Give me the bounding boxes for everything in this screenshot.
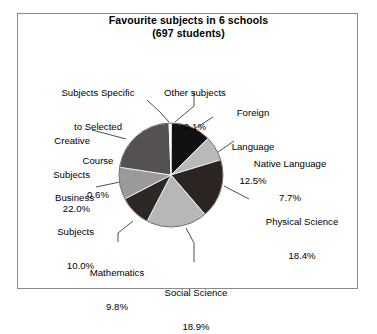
- label-subjects-specific-line1: Subjects Specific: [46, 87, 150, 98]
- label-business-subjects-line2: Subjects: [16, 226, 94, 237]
- label-business-subjects-line3: 10.0%: [16, 260, 94, 271]
- label-mathematics-line2: 9.8%: [70, 301, 164, 312]
- label-creative-subjects-line2: Subjects: [12, 169, 90, 180]
- label-native-language-line1: Native Language: [238, 158, 342, 169]
- chart-title: Favourite subjects in 6 schools (697 stu…: [0, 14, 377, 40]
- label-physical-science-line1: Physical Science: [252, 216, 352, 227]
- chart-title-line1: Favourite subjects in 6 schools: [109, 14, 268, 26]
- label-physical-science-line2: 18.4%: [252, 250, 352, 261]
- label-foreign-language-line1: Foreign: [216, 107, 290, 118]
- label-physical-science: Physical Science 18.4%: [252, 193, 352, 273]
- label-creative-subjects-line3: 22.0%: [12, 203, 90, 214]
- chart-title-line2: (697 students): [0, 27, 377, 40]
- label-creative-subjects: Creative Subjects 22.0%: [12, 112, 90, 226]
- label-creative-subjects-line1: Creative: [12, 135, 90, 146]
